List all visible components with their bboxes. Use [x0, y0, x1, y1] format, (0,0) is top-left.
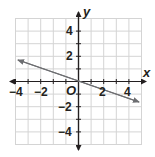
x-tick-label: −4: [9, 85, 23, 99]
y-axis-label: y: [82, 4, 91, 19]
coordinate-plane: x y O −4 −2 2 4 4 2 −2 −4: [0, 0, 155, 157]
y-tick-label: −2: [58, 100, 72, 114]
x-tick-label: 4: [124, 85, 131, 99]
origin-label: O: [66, 83, 76, 98]
x-axis-label: x: [142, 65, 151, 80]
x-tick-label: −2: [34, 85, 48, 99]
y-tick-label: −4: [58, 125, 72, 139]
y-tick-label: 2: [66, 49, 73, 63]
y-tick-label: 4: [66, 24, 73, 38]
x-tick-label: 2: [99, 85, 106, 99]
